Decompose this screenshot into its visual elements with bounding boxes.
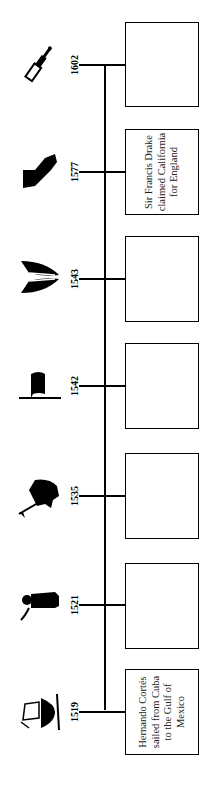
event-box (125, 343, 199, 429)
conquistador-on-horse-icon (15, 472, 63, 520)
timeline-spine (104, 65, 106, 710)
flag-icon (15, 360, 63, 408)
event-box (125, 22, 199, 107)
soldier-icon (15, 580, 63, 628)
timeline-tick (79, 711, 125, 713)
event-text: Hernando Cortés sailed from Cuba to the … (137, 671, 187, 753)
timeline-tick (79, 278, 125, 280)
timeline-tick (79, 385, 125, 387)
telescope-icon (15, 40, 63, 88)
event-box (125, 563, 199, 649)
timeline-tick (79, 604, 125, 606)
feathers-icon (15, 253, 63, 301)
event-text: Sir Francis Drake claimed California for… (143, 131, 181, 213)
timeline-tick (79, 171, 125, 173)
event-box: Sir Francis Drake claimed California for… (125, 129, 199, 215)
event-box: Hernando Cortés sailed from Cuba to the … (125, 669, 199, 755)
california-map-icon (15, 148, 63, 196)
sailing-ship-icon (15, 688, 63, 736)
event-box (125, 236, 199, 322)
timeline-tick (79, 64, 125, 66)
event-box (125, 453, 199, 539)
timeline-tick (79, 495, 125, 497)
